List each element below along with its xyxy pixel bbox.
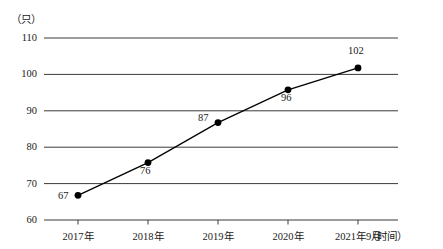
y-tick-label-80: 80 (7, 141, 37, 152)
data-label-2021: 102 (348, 45, 364, 56)
line-chart: （只） （时间） 110 100 90 80 70 60 2017年 2018年… (0, 0, 443, 249)
gridlines (44, 38, 398, 184)
data-line (78, 68, 358, 195)
y-tick-label-110: 110 (7, 32, 37, 43)
x-tick-label-2019: 2019年 (188, 228, 248, 243)
data-label-2018: 76 (140, 165, 151, 176)
data-label-2017: 67 (58, 190, 69, 201)
data-label-2019: 87 (198, 112, 209, 123)
data-point-2021 (355, 65, 362, 72)
data-series (75, 65, 362, 199)
x-axis (44, 220, 398, 225)
y-tick-label-90: 90 (7, 105, 37, 116)
x-tick-label-2018: 2018年 (118, 228, 178, 243)
y-tick-label-70: 70 (7, 178, 37, 189)
data-label-2020: 96 (281, 92, 292, 103)
y-tick-label-60: 60 (7, 214, 37, 225)
chart-canvas (0, 0, 443, 249)
x-tick-label-2020: 2020年 (258, 228, 318, 243)
x-tick-label-2017: 2017年 (48, 228, 108, 243)
y-axis-title: （只） (11, 11, 41, 26)
y-tick-label-100: 100 (7, 68, 37, 79)
x-tick-label-2021: 2021年9月 (318, 228, 398, 243)
data-point-2017 (75, 192, 82, 199)
data-point-2019 (215, 119, 222, 126)
